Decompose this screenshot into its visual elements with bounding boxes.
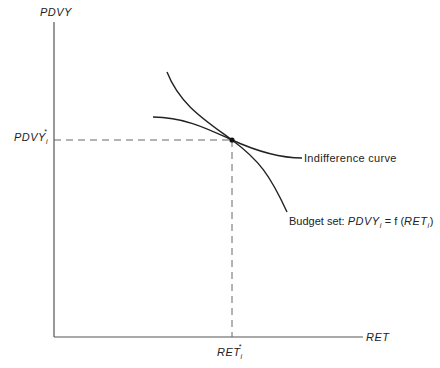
y-star-label: PDVYi* <box>14 130 51 145</box>
x-star-label: RETi* <box>217 345 246 360</box>
budget-set-curve <box>167 72 287 212</box>
x-axis-label: RET <box>366 331 390 343</box>
indifference-curve-label: Indifference curve <box>304 152 397 164</box>
tangency-point <box>229 137 234 142</box>
budget-set-label: Budget set: PDVYi = f (RETi) <box>289 215 433 229</box>
diagram-canvas <box>0 0 440 368</box>
indifference-curve <box>153 117 302 158</box>
y-axis-label: PDVY <box>40 6 72 18</box>
